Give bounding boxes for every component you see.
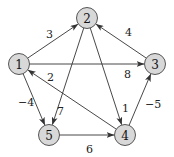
edge-2-4 <box>90 28 121 125</box>
node-label: 1 <box>15 58 23 72</box>
nodes: 12345 <box>9 8 166 146</box>
edge-weight-label: 3 <box>46 28 53 41</box>
graph-canvas: 38−4714−526 12345 <box>0 0 174 157</box>
edge-weight-label: 2 <box>47 71 54 84</box>
node-label: 3 <box>151 58 159 72</box>
edge-weight-label: 1 <box>122 102 129 115</box>
edge-weight-label: 6 <box>86 143 93 156</box>
edge-3-2 <box>96 24 146 58</box>
node-label: 4 <box>121 129 129 143</box>
edge-4-1 <box>28 70 116 129</box>
graph-diagram: 38−4714−526 12345 <box>0 0 174 157</box>
edge-weight-label: 7 <box>57 105 64 118</box>
edge-weight-label: 4 <box>125 26 132 39</box>
edge-weight-label: 8 <box>124 68 131 81</box>
edge-weight-label: −4 <box>18 96 34 109</box>
edge-weight-label: −5 <box>145 98 161 111</box>
node-label: 5 <box>45 129 53 143</box>
node-label: 2 <box>83 12 91 26</box>
